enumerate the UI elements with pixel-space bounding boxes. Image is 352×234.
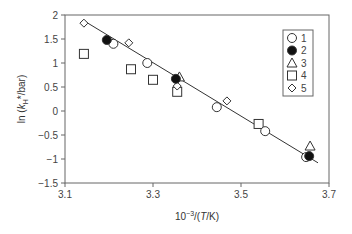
x-tick-label: 3.7 [322,189,336,200]
y-axis-label: ln (kH*/bar) [16,75,29,123]
legend-label: 3 [301,58,307,69]
square-icon [288,71,297,80]
open-square-marker [79,49,88,58]
y-tick-label: 2 [52,10,58,21]
y-tick-label: −0.5 [38,130,58,141]
open-circle-marker [261,127,270,136]
filled-circle-marker [305,152,314,161]
y-tick-label: 1.5 [44,34,58,45]
filled-circle-icon [288,46,297,55]
legend-label: 1 [301,33,307,44]
series-4 [79,49,263,128]
open-triangle-marker [305,141,315,150]
legend-label: 2 [301,45,307,56]
filled-circle-marker [171,74,180,83]
y-tick-label: −1 [47,154,59,165]
open-circle-marker [143,59,152,68]
y-tick-label: −1.5 [38,178,58,189]
legend-label: 5 [301,83,307,94]
filled-circle-marker [102,35,111,44]
open-diamond-marker [223,97,231,105]
y-tick-label: 1 [52,58,58,69]
data-points [79,19,315,161]
legend-label: 4 [301,70,307,81]
series-2 [102,35,313,160]
open-diamond-marker [125,39,133,47]
open-square-marker [254,119,263,128]
x-tick-label: 3.1 [58,189,72,200]
y-axis-ticks: 21.510.50−0.5−1−1.5 [38,10,65,189]
chart: 21.510.50−0.5−1−1.5 3.13.33.53.7 12345 1… [0,0,352,234]
y-tick-label: 0.5 [44,82,58,93]
y-tick-label: 0 [52,106,58,117]
open-circle-marker [212,103,221,112]
open-square-marker [127,65,136,74]
series-1 [109,39,311,161]
open-square-marker [149,75,158,84]
legend: 12345 [283,30,313,96]
open-diamond-marker [80,19,88,27]
x-tick-label: 3.3 [146,189,160,200]
x-tick-label: 3.5 [234,189,248,200]
x-axis-ticks: 3.13.33.53.7 [58,183,336,200]
circle-icon [288,34,297,43]
x-axis-label: 10−3/(T/K) [175,210,219,222]
